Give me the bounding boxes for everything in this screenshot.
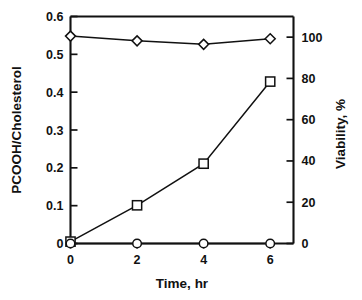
y-tick-label-5: 0.5 — [46, 48, 63, 62]
series-0-marker-2 — [199, 159, 208, 168]
series-0-marker-3 — [266, 77, 275, 86]
y-tick-label-4: 0.4 — [46, 86, 63, 100]
x-tick-label-1: 2 — [134, 253, 141, 267]
y-tick-label-3: 0.3 — [46, 124, 63, 138]
series-1-marker-3 — [265, 34, 275, 44]
y2-tick-label-5: 100 — [302, 31, 323, 45]
chart-canvas: 00.10.20.30.40.50.60204060801000246PCOOH… — [0, 0, 362, 300]
series-2-marker-1 — [133, 239, 142, 248]
y-tick-label-2: 0.2 — [46, 161, 63, 175]
y2-tick-label-2: 40 — [302, 154, 316, 168]
y-tick-label-0: 0 — [57, 237, 64, 251]
y2-tick-label-1: 20 — [302, 196, 316, 210]
x-tick-label-2: 4 — [200, 253, 207, 267]
series-line-1 — [71, 36, 271, 44]
series-2-marker-0 — [66, 239, 75, 248]
series-2-marker-3 — [266, 239, 275, 248]
y-tick-label-6: 0.6 — [46, 10, 63, 24]
x-tick-label-3: 6 — [267, 253, 274, 267]
y2-tick-label-4: 80 — [302, 72, 316, 86]
series-1-marker-1 — [132, 36, 142, 46]
series-1-marker-2 — [199, 39, 209, 49]
series-0-marker-1 — [132, 201, 141, 210]
y-tick-label-1: 0.1 — [46, 199, 63, 213]
series-2-marker-2 — [199, 239, 208, 248]
y-axis-title: PCOOH/Cholesterol — [9, 66, 24, 194]
series-line-0 — [71, 82, 271, 242]
chart-figure: 00.10.20.30.40.50.60204060801000246PCOOH… — [0, 0, 362, 300]
series-1-marker-0 — [66, 31, 76, 41]
y2-tick-label-0: 0 — [302, 237, 309, 251]
x-tick-label-0: 0 — [67, 253, 74, 267]
y2-axis-title: Viability, % — [333, 99, 348, 169]
x-axis-title: Time, hr — [156, 276, 209, 291]
y2-tick-label-3: 60 — [302, 113, 316, 127]
